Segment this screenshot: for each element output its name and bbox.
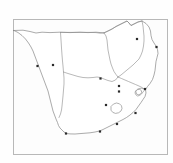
locality-dot xyxy=(118,90,120,92)
locality-dot xyxy=(105,104,107,106)
locality-dot xyxy=(99,77,101,79)
locality-dot xyxy=(155,46,157,48)
locality-dot xyxy=(99,130,101,132)
map-figure: Southern Africa sampling locality map xyxy=(0,0,173,163)
locality-dot xyxy=(134,112,136,114)
locality-dot xyxy=(136,38,138,40)
locality-dot xyxy=(116,123,118,125)
locality-dot xyxy=(144,88,146,90)
locality-dot xyxy=(118,85,120,87)
locality-dot xyxy=(52,64,54,66)
locality-dot xyxy=(36,65,38,67)
southern-africa-map xyxy=(0,0,173,163)
swaziland-outline xyxy=(136,89,142,94)
locality-dot xyxy=(65,132,67,134)
